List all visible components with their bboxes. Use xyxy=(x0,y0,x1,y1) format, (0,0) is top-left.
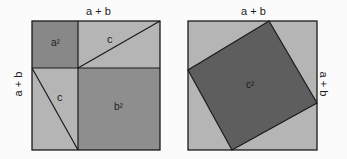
b-squared-label: b² xyxy=(114,101,123,112)
triangle-left-label: c xyxy=(57,91,63,103)
triangle-top-label: c xyxy=(107,33,113,45)
right-top-label: a + b xyxy=(241,5,266,17)
a-squared-label: a² xyxy=(51,37,60,48)
right-side-label: a + b xyxy=(318,72,330,97)
pythagorean-proof-diagram xyxy=(0,0,347,159)
left-side-label: a + b xyxy=(12,72,24,97)
c-squared-label: c² xyxy=(246,79,254,90)
left-top-label: a + b xyxy=(86,5,111,17)
